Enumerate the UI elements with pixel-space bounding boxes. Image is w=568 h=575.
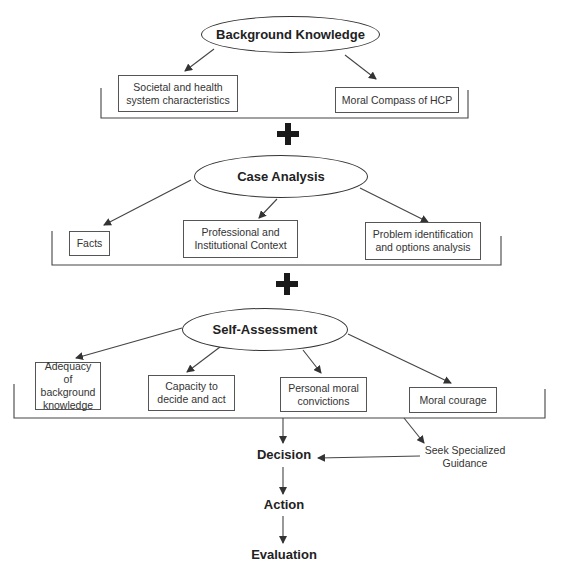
item-personal-moral-convictions: Personal moral convictions [280,377,367,412]
item-capacity-decide-act: Capacity to decide and act [148,375,235,411]
item-professional-institutional-context: Professional and Institutional Context [183,220,298,258]
item-moral-courage: Moral courage [409,387,497,413]
item-societal-health-system: Societal and health system characteristi… [118,75,238,112]
flow-decision: Decision [252,447,316,462]
section-title-background-knowledge: Background Knowledge [201,16,380,53]
section-title-self-assessment: Self-Assessment [182,308,348,351]
flow-action: Action [259,497,309,512]
section-title-case-analysis: Case Analysis [194,155,368,198]
plus-icon [277,123,299,145]
plus-icon [276,273,298,295]
item-adequacy-background-knowledge: Adequacy of background knowledge [35,362,101,410]
flow-evaluation: Evaluation [246,547,322,562]
item-moral-compass: Moral Compass of HCP [335,87,459,113]
item-facts: Facts [69,231,110,256]
item-problem-identification: Problem identification and options analy… [365,222,481,260]
flow-seek-specialized-guidance: Seek Specialized Guidance [420,444,510,470]
